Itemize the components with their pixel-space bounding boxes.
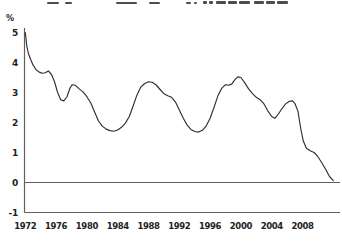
chart-figure: % -1012345 19721976198019841988199219962…: [0, 0, 342, 243]
y-tick-label: 4: [12, 58, 18, 68]
y-tick-label: 2: [12, 118, 18, 128]
x-tick-label: 2008: [291, 221, 313, 231]
x-tick-label: 2000: [230, 221, 252, 231]
x-tick-label: 2004: [261, 221, 283, 231]
x-tick-label: 1976: [45, 221, 67, 231]
line-chart-plot: [0, 0, 342, 243]
y-tick-label: 1: [12, 148, 18, 158]
growth-rate-line: [25, 33, 333, 181]
x-tick-label: 1992: [168, 221, 190, 231]
x-tick-label: 1996: [199, 221, 221, 231]
x-tick-label: 1988: [137, 221, 159, 231]
x-tick-label: 1972: [14, 221, 36, 231]
y-tick-label: -1: [9, 208, 18, 218]
x-tick-label: 1980: [76, 221, 98, 231]
y-tick-label: 3: [12, 88, 18, 98]
y-tick-label: 5: [12, 28, 18, 38]
y-tick-label: 0: [12, 178, 18, 188]
x-tick-label: 1984: [107, 221, 129, 231]
